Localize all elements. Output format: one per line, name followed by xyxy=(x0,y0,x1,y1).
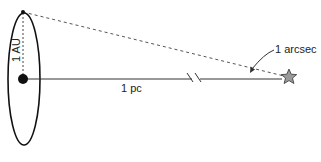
star-icon xyxy=(281,69,296,84)
earth-dot xyxy=(21,10,25,14)
au-label: 1 AU xyxy=(10,38,22,62)
angle-arrowhead xyxy=(250,67,255,74)
sun-dot xyxy=(18,74,28,84)
break-mark-1 xyxy=(187,73,193,82)
sightline-dashed xyxy=(23,12,284,76)
parallax-diagram: 1 arcsec 1 pc 1 AU xyxy=(0,0,321,162)
break-mark-2 xyxy=(195,73,201,82)
angle-label: 1 arcsec xyxy=(275,43,317,55)
pc-label: 1 pc xyxy=(121,82,142,94)
angle-arrow xyxy=(252,50,274,69)
